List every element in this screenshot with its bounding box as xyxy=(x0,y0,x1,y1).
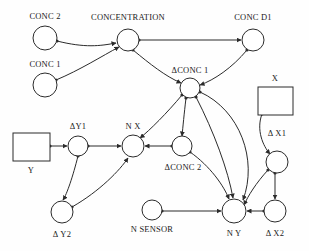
node-layer xyxy=(13,26,293,223)
node-dx2[interactable] xyxy=(264,200,286,222)
edge-dconc1-to-nx xyxy=(140,95,182,138)
node-dy1[interactable] xyxy=(68,136,88,156)
edge-concentration-to-dconc1 xyxy=(133,50,181,83)
edge-dconc1-to-ny2 xyxy=(200,92,248,200)
node-conc1[interactable] xyxy=(33,73,57,97)
edge-dconc1-to-dconc2 xyxy=(182,98,186,136)
node-x[interactable] xyxy=(258,87,293,115)
diagram-graph xyxy=(0,0,309,251)
edge-dy1-to-dy2 xyxy=(63,156,78,200)
node-nx[interactable] xyxy=(122,135,144,157)
node-dx1[interactable] xyxy=(266,151,288,173)
edge-x-to-dx1 xyxy=(260,114,270,154)
node-dy2[interactable] xyxy=(51,201,73,223)
node-dconc2[interactable] xyxy=(172,136,192,156)
node-y[interactable] xyxy=(13,133,50,161)
edge-dy2-to-nx xyxy=(72,158,128,207)
node-conc2[interactable] xyxy=(33,26,57,50)
edge-layer xyxy=(48,38,276,212)
edge-concd1-to-dconc1 xyxy=(200,50,247,85)
edge-dconc2-to-ny xyxy=(190,152,229,199)
edge-conc1-to-concentration xyxy=(56,47,119,80)
node-nsensor[interactable] xyxy=(142,200,162,220)
edge-dx1-to-ny xyxy=(244,170,268,205)
diagram-canvas: CONC 2CONC 1CONCENTRATIONCONC D1ΔCONC 1X… xyxy=(0,0,309,251)
node-concentration[interactable] xyxy=(117,29,139,51)
node-dconc1[interactable] xyxy=(180,78,200,98)
node-ny[interactable] xyxy=(222,199,246,223)
node-concd1[interactable] xyxy=(242,29,264,51)
edge-conc2-to-concentration xyxy=(57,41,116,46)
